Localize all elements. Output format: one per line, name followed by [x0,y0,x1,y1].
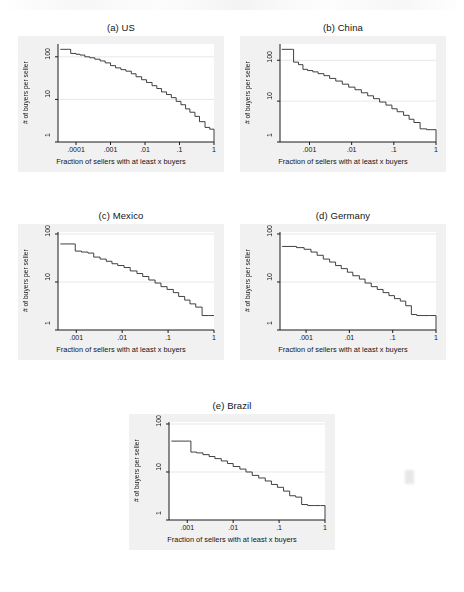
panel-body: # of buyers per seller110100.0001.001.01… [18,36,224,172]
panel-brazil: (e) Brazil# of buyers per seller110100.0… [129,400,335,550]
panel-germany: (d) Germany# of buyers per seller110100.… [240,210,446,360]
plot-area [18,224,224,360]
plot-area [240,224,446,360]
plot-background [58,232,214,330]
panel-title: (a) US [18,22,224,33]
plot-area [129,414,335,550]
plot-background [280,232,436,330]
panel-mexico: (c) Mexico# of buyers per seller110100.0… [18,210,224,360]
panel-title: (e) Brazil [129,400,335,411]
panel-body: # of buyers per seller110100.001.01.11Fr… [129,414,335,550]
plot-background [169,422,325,520]
plot-area [240,36,446,172]
panel-title: (c) Mexico [18,210,224,221]
scan-smudge-bottom-right [405,470,414,484]
figure-root: (a) US# of buyers per seller110100.0001.… [0,0,464,592]
plot-background [280,44,436,142]
plot-area [18,36,224,172]
panel-us: (a) US# of buyers per seller110100.0001.… [18,22,224,172]
panel-body: # of buyers per seller110100.001.01.11Fr… [240,224,446,360]
panel-body: # of buyers per seller110100.001.01.11Fr… [240,36,446,172]
panel-china: (b) China# of buyers per seller110100.00… [240,22,446,172]
plot-background [58,44,214,142]
panel-title: (d) Germany [240,210,446,221]
panel-body: # of buyers per seller110100.001.01.11Fr… [18,224,224,360]
panel-title: (b) China [240,22,446,33]
scan-artifact-band [0,0,464,10]
